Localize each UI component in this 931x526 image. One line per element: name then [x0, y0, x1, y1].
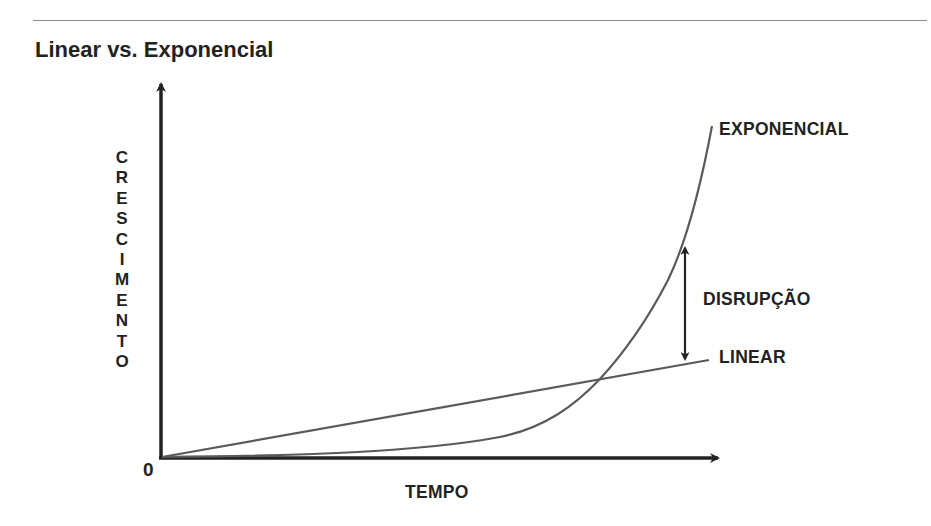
growth-diagram — [0, 0, 931, 526]
y-axis-letter: E — [110, 291, 134, 311]
origin-label: 0 — [143, 459, 154, 481]
x-axis-label: TEMPO — [405, 482, 469, 503]
y-axis-letter: E — [110, 189, 134, 209]
y-axis-letter: M — [110, 270, 134, 290]
linear-label: LINEAR — [719, 347, 786, 368]
y-axis-letter: T — [110, 332, 134, 352]
exponential-label: EXPONENCIAL — [719, 119, 849, 140]
y-axis-letter: O — [110, 352, 134, 372]
y-axis-letter: R — [110, 168, 134, 188]
y-axis-letter: I — [110, 250, 134, 270]
y-axis-letter: S — [110, 209, 134, 229]
linear-curve — [162, 360, 709, 457]
y-axis-letter: C — [110, 230, 134, 250]
disruption-label: DISRUPÇÃO — [703, 289, 811, 310]
y-axis-letter: N — [110, 311, 134, 331]
y-axis-letter: C — [110, 148, 134, 168]
y-axis-label: C R E S C I M E N T O — [110, 148, 134, 372]
